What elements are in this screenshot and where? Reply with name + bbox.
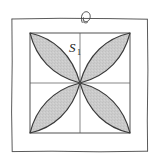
frame-edge-right [147, 19, 148, 151]
figure-container: S 1 [0, 0, 158, 163]
region-label-subscript: 1 [77, 48, 81, 57]
region-label-letter: S [69, 40, 76, 55]
rosette-diagram: S 1 [0, 0, 158, 163]
frame-edge-left [12, 19, 13, 152]
frame-edge-bottom [12, 151, 147, 152]
